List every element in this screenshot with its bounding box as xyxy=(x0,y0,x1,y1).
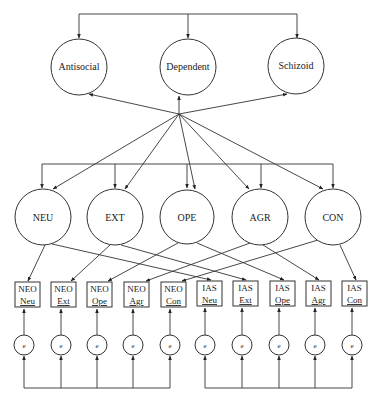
error-bracket-neo xyxy=(24,356,170,388)
higher-order-factor-antisocial: Antisocial xyxy=(51,39,107,95)
indicator-label-line2: Neu xyxy=(202,295,217,305)
error-label: e xyxy=(95,342,98,350)
indicator-label-line2: Con xyxy=(166,296,182,306)
indicator-ias-agr: IAS Agr xyxy=(306,281,331,306)
error-term: e xyxy=(195,335,215,355)
error-label: e xyxy=(240,342,243,350)
indicator-ias-neu: IAS Neu xyxy=(197,281,222,306)
factor-neu: NEU xyxy=(15,189,71,245)
higher-order-factor-dependent: Dependent xyxy=(160,39,216,95)
node-label: CON xyxy=(322,212,343,223)
factor-agr: AGR xyxy=(232,189,288,245)
indicator-label-line2: Agr xyxy=(312,295,326,305)
error-label: e xyxy=(59,342,62,350)
error-label: e xyxy=(131,342,134,350)
top-correlation-bracket xyxy=(79,14,297,38)
error-label: e xyxy=(203,342,206,350)
error-term: e xyxy=(342,335,362,355)
indicator-ias-con: IAS Con xyxy=(342,281,367,306)
error-term: e xyxy=(14,335,34,355)
node-label: NEU xyxy=(33,212,54,223)
error-term: e xyxy=(51,335,71,355)
error-label: e xyxy=(350,342,353,350)
indicator-label-line2: Agr xyxy=(130,296,144,306)
error-term: e xyxy=(232,335,252,355)
indicator-ias-ope: IAS Ope xyxy=(270,281,295,306)
factor-ope: OPE xyxy=(160,190,214,244)
indicator-label-line2: Ext xyxy=(57,296,70,306)
indicator-label-line1: NEO xyxy=(54,284,73,294)
error-bracket-ias xyxy=(205,356,352,388)
indicator-label-line1: NEO xyxy=(90,284,109,294)
indicator-label-line1: NEO xyxy=(18,284,37,294)
indicator-label-line1: IAS xyxy=(238,283,253,293)
indicator-label-line1: NEO xyxy=(127,284,146,294)
indicator-label-line1: IAS xyxy=(347,283,362,293)
indicator-neo-con: NEO Con xyxy=(161,282,186,307)
indicator-label-line2: Con xyxy=(347,295,363,305)
indicator-label-line1: NEO xyxy=(164,284,183,294)
higher-order-factor-schizoid: Schizoid xyxy=(268,38,324,94)
indicator-label-line2: Ope xyxy=(275,295,290,305)
error-label: e xyxy=(22,342,25,350)
error-label: e xyxy=(168,342,171,350)
indicator-label-line2: Ope xyxy=(92,296,107,306)
sem-diagram: Antisocial Dependent Schizoid NEU EXT OP… xyxy=(0,0,379,401)
node-label: AGR xyxy=(249,212,270,223)
error-term: e xyxy=(305,335,325,355)
indicator-ias-ext: IAS Ext xyxy=(233,281,258,306)
indicator-label-line1: IAS xyxy=(311,283,326,293)
error-terms: e e e e e e e e e e xyxy=(14,335,362,355)
hub-arrows-down xyxy=(53,114,323,189)
error-term: e xyxy=(160,335,180,355)
node-label: Antisocial xyxy=(58,61,99,72)
error-arrows xyxy=(24,308,352,335)
error-label: e xyxy=(277,342,280,350)
node-label: Dependent xyxy=(166,61,210,72)
factor-ext: EXT xyxy=(87,189,143,245)
factor-con: CON xyxy=(305,189,361,245)
indicator-label-line2: Ext xyxy=(239,295,252,305)
indicator-label-line1: IAS xyxy=(275,283,290,293)
error-term: e xyxy=(87,335,107,355)
indicator-neo-neu: NEO Neu xyxy=(15,282,40,307)
indicator-label-line2: Neu xyxy=(20,296,35,306)
indicator-label-line1: IAS xyxy=(202,283,217,293)
loading-arrows xyxy=(28,240,356,281)
hub-arrows-up xyxy=(89,94,287,114)
node-label: Schizoid xyxy=(279,60,314,71)
indicator-neo-agr: NEO Agr xyxy=(124,282,149,307)
indicator-neo-ope: NEO Ope xyxy=(87,282,112,307)
node-label: EXT xyxy=(105,212,124,223)
error-label: e xyxy=(313,342,316,350)
error-term: e xyxy=(269,335,289,355)
node-label: OPE xyxy=(178,212,197,223)
factor-bracket xyxy=(42,164,333,188)
indicator-neo-ext: NEO Ext xyxy=(51,282,76,307)
error-term: e xyxy=(123,335,143,355)
